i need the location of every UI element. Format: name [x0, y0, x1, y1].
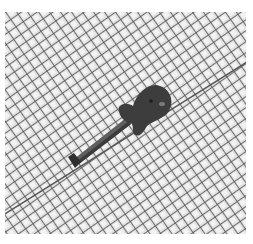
- photo-frame: [5, 12, 246, 234]
- guitar-on-mesh-photo: [5, 12, 246, 234]
